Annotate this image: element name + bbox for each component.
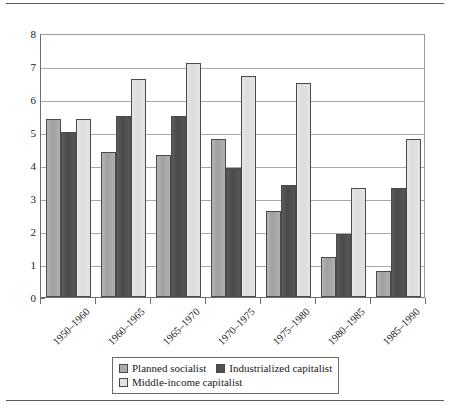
y-tick-label: 0	[14, 293, 36, 304]
legend-label: Middle-income capitalist	[132, 375, 242, 389]
x-tick-label: 1980–1985	[325, 306, 366, 347]
legend-row-1: Planned socialist Industrialized capital…	[119, 361, 332, 375]
bar[interactable]	[406, 139, 421, 297]
x-tick-label: 1985–1990	[380, 306, 421, 347]
bar[interactable]	[376, 271, 391, 297]
x-tick-label: 1975–1980	[270, 306, 311, 347]
bar-chart-figure: 012345678 1950–19601960–19651965–1970197…	[0, 6, 450, 398]
x-tick-label: 1965–1970	[160, 306, 201, 347]
y-tick-label: 3	[14, 194, 36, 205]
legend-item-middle-income-capitalist[interactable]: Middle-income capitalist	[119, 375, 242, 389]
bar[interactable]	[321, 257, 336, 297]
bar[interactable]	[351, 188, 366, 297]
x-tick-label: 1960–1965	[105, 306, 146, 347]
legend-swatch-icon	[216, 364, 225, 373]
legend-swatch-icon	[119, 378, 128, 387]
x-tick-mark	[260, 298, 261, 304]
bar[interactable]	[391, 188, 406, 297]
y-tick-label: 1	[14, 260, 36, 271]
bar[interactable]	[281, 185, 296, 297]
chart-legend: Planned socialist Industrialized capital…	[112, 357, 339, 394]
plot-area	[40, 34, 425, 298]
y-axis: 012345678	[10, 34, 36, 298]
bar-group-bars	[261, 35, 316, 297]
bar-group-bars	[316, 35, 371, 297]
legend-label: Industrialized capitalist	[229, 361, 332, 375]
bar-group-bars	[206, 35, 261, 297]
bar-group	[206, 35, 261, 297]
bar-group-bars	[96, 35, 151, 297]
bar[interactable]	[156, 155, 171, 297]
bar-group	[96, 35, 151, 297]
y-tick-label: 7	[14, 62, 36, 73]
bar[interactable]	[61, 132, 76, 297]
bar-group	[371, 35, 426, 297]
bar-group-bars	[371, 35, 426, 297]
y-tick-label: 5	[14, 128, 36, 139]
x-tick-mark	[370, 298, 371, 304]
top-rule	[6, 3, 444, 4]
y-tick-label: 8	[14, 29, 36, 40]
y-tick-label: 6	[14, 95, 36, 106]
bar-group	[151, 35, 206, 297]
bar-group	[261, 35, 316, 297]
bar-group	[316, 35, 371, 297]
bottom-rule	[6, 400, 444, 401]
bar-group-bars	[151, 35, 206, 297]
x-tick-mark	[95, 298, 96, 304]
bar[interactable]	[116, 116, 131, 298]
y-tick-label: 4	[14, 161, 36, 172]
legend-item-planned-socialist[interactable]: Planned socialist	[119, 361, 206, 375]
legend-item-industrialized-capitalist[interactable]: Industrialized capitalist	[216, 361, 332, 375]
bar[interactable]	[296, 83, 311, 298]
y-tick-label: 2	[14, 227, 36, 238]
bar[interactable]	[171, 116, 186, 298]
x-tick-mark	[150, 298, 151, 304]
bar[interactable]	[241, 76, 256, 297]
x-tick-mark	[425, 298, 426, 304]
bar-group-bars	[41, 35, 96, 297]
bar[interactable]	[226, 168, 241, 297]
legend-swatch-icon	[119, 364, 128, 373]
x-tick-mark	[315, 298, 316, 304]
bar[interactable]	[266, 211, 281, 297]
bar[interactable]	[46, 119, 61, 297]
bar[interactable]	[131, 79, 146, 297]
legend-row-2: Middle-income capitalist	[119, 375, 332, 389]
x-tick-label: 1970–1975	[215, 306, 256, 347]
bar[interactable]	[211, 139, 226, 297]
legend-label: Planned socialist	[132, 361, 206, 375]
bar[interactable]	[336, 234, 351, 297]
bar[interactable]	[186, 63, 201, 297]
bar[interactable]	[101, 152, 116, 297]
x-tick-mark	[40, 298, 41, 304]
bar[interactable]	[76, 119, 91, 297]
x-tick-label: 1950–1960	[50, 306, 91, 347]
x-tick-mark	[205, 298, 206, 304]
bar-group	[41, 35, 96, 297]
